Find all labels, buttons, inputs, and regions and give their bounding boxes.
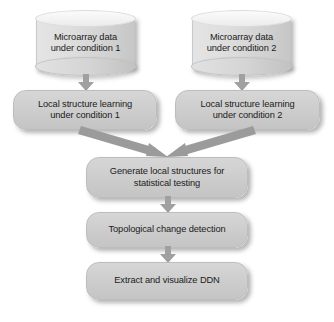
node-label-line-1: Local structure learning — [38, 99, 132, 110]
node-data-source-1: Microarray data under condition 1 — [36, 10, 135, 76]
node-label-line-2: under condition 1 — [38, 110, 132, 121]
node-label-line-2: statistical testing — [110, 178, 224, 189]
node-label: Local structure learning under condition… — [200, 99, 294, 122]
node-detection: Topological change detection — [86, 212, 248, 248]
node-learning-2: Local structure learning under condition… — [175, 90, 320, 130]
node-generate: Generate local structures for statistica… — [86, 157, 248, 198]
node-label-line-1: Extract and visualize DDN — [114, 275, 220, 286]
node-label: Topological change detection — [108, 224, 225, 235]
node-label-line-2: under condition 1 — [36, 43, 135, 54]
node-label-line-1: Microarray data — [36, 32, 135, 43]
node-label: Microarray data under condition 2 — [192, 32, 291, 55]
cylinder-top-ellipse — [191, 10, 292, 27]
node-data-source-2: Microarray data under condition 2 — [192, 10, 291, 76]
node-extract: Extract and visualize DDN — [86, 262, 248, 300]
node-label-line-1: Topological change detection — [108, 224, 225, 235]
node-label-line-1: Local structure learning — [200, 99, 294, 110]
node-label: Microarray data under condition 1 — [36, 32, 135, 55]
node-label-line-2: under condition 2 — [192, 43, 291, 54]
flowchart-canvas: Microarray data under condition 1 Microa… — [0, 0, 334, 322]
node-label-line-1: Generate local structures for — [110, 166, 224, 177]
node-learning-1: Local structure learning under condition… — [13, 90, 157, 130]
arrow-learning-2-to-generate — [162, 126, 254, 158]
cylinder-top-ellipse — [35, 10, 136, 27]
arrow-learning-1-to-generate — [80, 126, 172, 158]
node-label: Extract and visualize DDN — [114, 275, 220, 286]
node-label-line-1: Microarray data — [192, 32, 291, 43]
node-label: Local structure learning under condition… — [38, 99, 132, 122]
node-label-line-2: under condition 2 — [200, 110, 294, 121]
node-label: Generate local structures for statistica… — [110, 166, 224, 189]
